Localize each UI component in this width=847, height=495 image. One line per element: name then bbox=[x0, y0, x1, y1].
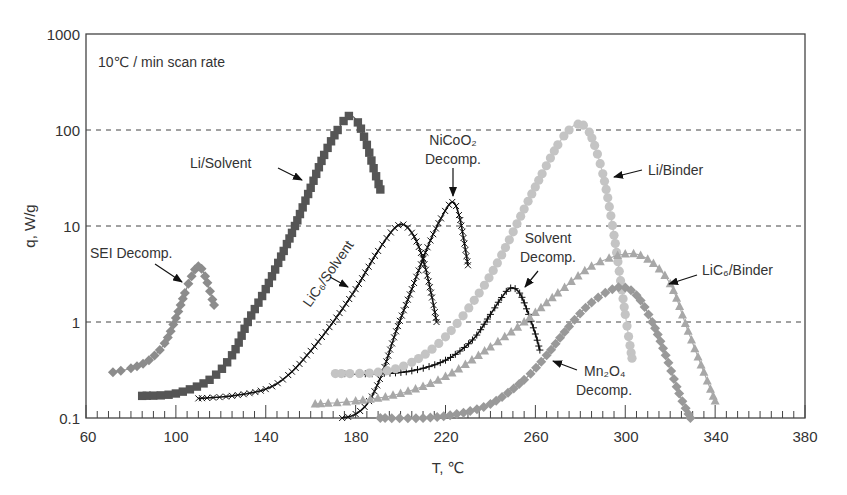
triangle-marker bbox=[454, 364, 463, 373]
triangle-marker bbox=[493, 337, 502, 346]
circle-marker bbox=[399, 362, 408, 371]
triangle-marker bbox=[629, 249, 638, 258]
x-marker bbox=[269, 383, 275, 389]
diamond-marker bbox=[666, 366, 676, 376]
arrow-mn2o4 bbox=[553, 361, 577, 370]
y-tick-100: 100 bbox=[55, 122, 80, 139]
circle-marker bbox=[447, 326, 456, 335]
square-marker bbox=[360, 133, 368, 141]
triangle-marker bbox=[513, 322, 522, 331]
arrow-lic6-solvent bbox=[330, 277, 348, 287]
series-sei-decomp bbox=[108, 261, 219, 377]
triangle-marker bbox=[486, 342, 495, 351]
triangle-marker bbox=[699, 367, 708, 376]
circle-marker bbox=[464, 303, 473, 312]
diamond-marker bbox=[205, 286, 215, 296]
x-marker bbox=[315, 339, 321, 345]
triangle-marker bbox=[675, 302, 684, 311]
x-tick-100: 100 bbox=[163, 428, 188, 445]
x-marker bbox=[366, 264, 372, 270]
triangle-marker bbox=[587, 261, 596, 270]
x-marker bbox=[362, 269, 368, 275]
triangle-marker bbox=[690, 344, 699, 353]
circle-marker bbox=[553, 140, 562, 149]
triangle-marker bbox=[681, 319, 690, 328]
x-tick-380: 380 bbox=[792, 428, 817, 445]
triangle-marker bbox=[500, 332, 509, 341]
label-mn2o4-line2: Decomp. bbox=[576, 382, 632, 398]
x-marker bbox=[430, 231, 436, 237]
circle-marker bbox=[622, 322, 631, 331]
y-tick-1000: 1000 bbox=[47, 26, 80, 43]
circle-marker bbox=[383, 366, 392, 375]
square-marker bbox=[367, 156, 375, 164]
x-tick-140: 140 bbox=[253, 428, 278, 445]
label-lic6-binder: LiC₆/Binder bbox=[702, 262, 773, 278]
square-marker bbox=[149, 391, 157, 399]
tick-marker bbox=[536, 347, 543, 354]
label-nicoo2-line2: Decomp. bbox=[425, 151, 481, 167]
triangle-marker bbox=[596, 257, 605, 266]
circle-marker bbox=[365, 368, 374, 377]
circle-marker bbox=[605, 202, 614, 211]
triangle-marker bbox=[684, 326, 693, 335]
tick-marker bbox=[534, 337, 541, 344]
x-axis-tick-labels: 60 100 140 180 220 260 300 340 380 bbox=[80, 428, 818, 445]
x-axis-title: T, ℃ bbox=[432, 459, 465, 476]
x-marker bbox=[326, 324, 332, 330]
series-nicoo2-decomp bbox=[339, 199, 471, 421]
triangle-marker bbox=[461, 360, 470, 369]
square-marker bbox=[369, 164, 377, 172]
circle-marker bbox=[337, 369, 346, 378]
x-tick-300: 300 bbox=[613, 428, 638, 445]
circle-marker bbox=[598, 169, 607, 178]
circle-marker bbox=[475, 289, 484, 298]
y-axis-title: q, W/g bbox=[21, 204, 38, 247]
triangle-marker bbox=[697, 360, 706, 369]
callouts: SEI Decomp. Li/Solvent LiC₆/Solvent NiCo… bbox=[90, 132, 773, 398]
x-tick-340: 340 bbox=[703, 428, 728, 445]
tick-marker bbox=[408, 367, 415, 374]
x-marker bbox=[384, 235, 390, 241]
label-mn2o4-line1: Mn₂O₄ bbox=[584, 363, 626, 379]
x-marker bbox=[333, 315, 339, 321]
x-marker bbox=[353, 286, 359, 292]
circle-marker bbox=[493, 258, 502, 267]
circle-marker bbox=[434, 339, 443, 348]
circle-marker bbox=[509, 227, 518, 236]
x-tick-60: 60 bbox=[80, 428, 97, 445]
circle-marker bbox=[600, 177, 609, 186]
triangle-marker bbox=[694, 352, 703, 361]
y-tick-10: 10 bbox=[63, 218, 80, 235]
label-nicoo2-line1: NiCoO₂ bbox=[429, 132, 476, 148]
x-marker bbox=[369, 258, 375, 264]
x-marker bbox=[323, 329, 329, 335]
label-lic6-solvent: LiC₆/Solvent bbox=[299, 237, 356, 310]
circle-marker bbox=[627, 354, 636, 363]
x-marker bbox=[359, 275, 365, 281]
circle-marker bbox=[520, 204, 529, 213]
square-marker bbox=[363, 141, 371, 149]
square-marker bbox=[357, 124, 365, 132]
triangle-marker bbox=[687, 335, 696, 344]
tick-marker bbox=[532, 330, 539, 337]
square-marker bbox=[157, 391, 165, 399]
y-axis-tick-labels: 0.1 1 10 100 1000 bbox=[47, 26, 80, 427]
triangle-marker bbox=[467, 355, 476, 364]
circle-marker bbox=[606, 211, 615, 220]
x-marker bbox=[362, 404, 368, 410]
triangle-marker bbox=[703, 376, 712, 385]
circle-marker bbox=[624, 332, 633, 341]
diamond-marker bbox=[116, 366, 126, 376]
triangle-marker bbox=[706, 384, 715, 393]
triangle-marker bbox=[678, 310, 687, 319]
square-marker bbox=[345, 112, 353, 120]
arrow-lic6-binder bbox=[669, 275, 697, 284]
x-tick-260: 260 bbox=[523, 428, 548, 445]
circle-marker bbox=[355, 369, 364, 378]
y-tick-0.1: 0.1 bbox=[59, 410, 80, 427]
x-marker bbox=[308, 348, 314, 354]
x-marker bbox=[319, 334, 325, 340]
circle-marker bbox=[505, 235, 514, 244]
x-marker bbox=[374, 382, 380, 388]
